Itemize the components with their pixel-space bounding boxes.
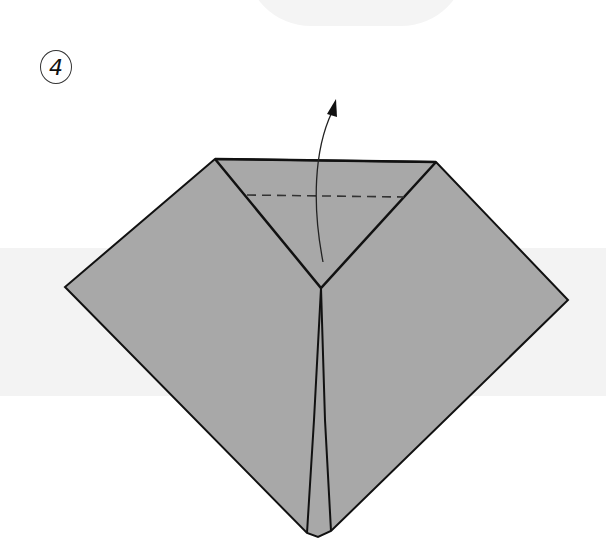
origami-diagram: 4 <box>0 0 606 552</box>
fold-diagram-svg <box>0 0 606 552</box>
arrowhead-icon <box>327 99 337 117</box>
